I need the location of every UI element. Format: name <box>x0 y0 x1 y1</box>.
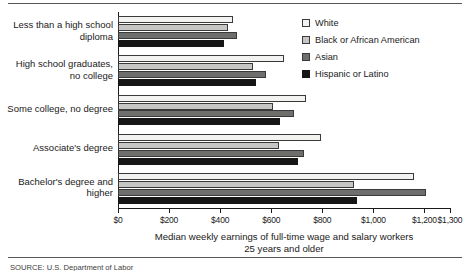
category-label-0: Less than a high schooldiploma <box>0 19 113 42</box>
bar-0-1 <box>118 55 284 62</box>
legend-item-3[interactable]: Hispanic or Latino <box>302 65 420 82</box>
x-tick-label: $400 <box>211 215 229 225</box>
x-tick <box>424 208 425 213</box>
category-label-3: Associate's degree <box>0 142 113 154</box>
legend-item-1[interactable]: Black or African American <box>302 31 420 48</box>
category-label-line: High school graduates, <box>0 58 113 70</box>
bar-0-0 <box>118 16 233 23</box>
bar-3-3 <box>118 158 298 165</box>
bar-0-2 <box>118 95 306 102</box>
bar-2-4 <box>118 189 426 196</box>
x-tick-label: $1,000 <box>361 215 386 225</box>
bar-2-3 <box>118 150 304 157</box>
x-tick-label: $1,300 <box>438 215 463 225</box>
bar-3-4 <box>118 197 357 204</box>
bar-3-2 <box>118 118 280 125</box>
bar-2-0 <box>118 32 237 39</box>
category-label-2: Some college, no degree <box>0 103 113 115</box>
category-label-line: higher <box>0 187 113 199</box>
x-tick-label: $0 <box>113 215 122 225</box>
bar-0-3 <box>118 134 321 141</box>
bar-1-2 <box>118 103 273 110</box>
x-tick-label: $1,200 <box>412 215 437 225</box>
x-tick <box>271 208 272 213</box>
category-label-line: Some college, no degree <box>0 103 113 115</box>
x-tick <box>169 208 170 213</box>
bar-2-1 <box>118 71 266 78</box>
bar-1-3 <box>118 142 279 149</box>
x-tick <box>450 208 451 213</box>
x-tick-label: $600 <box>262 215 280 225</box>
chart-legend: WhiteBlack or African AmericanAsianHispa… <box>302 14 420 82</box>
legend-swatch-icon <box>302 36 310 44</box>
x-tick <box>220 208 221 213</box>
legend-label: Asian <box>315 52 338 62</box>
bar-3-0 <box>118 40 224 47</box>
x-tick-label: $800 <box>313 215 331 225</box>
x-axis-title-line1: Median weekly earnings of full-time wage… <box>118 231 450 243</box>
x-tick <box>322 208 323 213</box>
x-tick <box>373 208 374 213</box>
x-axis-line <box>118 208 450 209</box>
bar-3-1 <box>118 79 256 86</box>
category-label-line: Less than a high school <box>0 19 113 31</box>
bar-2-2 <box>118 110 294 117</box>
legend-swatch-icon <box>302 70 310 78</box>
legend-item-0[interactable]: White <box>302 14 420 31</box>
legend-label: Hispanic or Latino <box>315 69 389 79</box>
legend-label: White <box>315 18 339 28</box>
category-label-1: High school graduates,no college <box>0 58 113 81</box>
x-axis-title-line2: 25 years and older <box>118 243 450 255</box>
source-note: SOURCE: U.S. Department of Labor <box>10 263 462 271</box>
x-axis-title: Median weekly earnings of full-time wage… <box>118 231 450 255</box>
bar-1-0 <box>118 24 228 31</box>
bottom-divider-rule <box>8 257 462 258</box>
x-tick-label: $200 <box>160 215 178 225</box>
category-label-4: Bachelor's degree andhigher <box>0 176 113 199</box>
top-divider-rule <box>8 3 462 4</box>
category-label-line: no college <box>0 70 113 82</box>
chart-figure: Less than a high schooldiplomaHigh schoo… <box>0 0 470 272</box>
bar-1-4 <box>118 181 354 188</box>
bar-1-1 <box>118 63 253 70</box>
legend-item-2[interactable]: Asian <box>302 48 420 65</box>
category-label-line: Bachelor's degree and <box>0 176 113 188</box>
bar-0-4 <box>118 173 414 180</box>
legend-swatch-icon <box>302 53 310 61</box>
legend-label: Black or African American <box>315 35 420 45</box>
legend-swatch-icon <box>302 19 310 27</box>
x-tick <box>118 208 119 213</box>
category-label-line: diploma <box>0 31 113 43</box>
category-label-line: Associate's degree <box>0 142 113 154</box>
